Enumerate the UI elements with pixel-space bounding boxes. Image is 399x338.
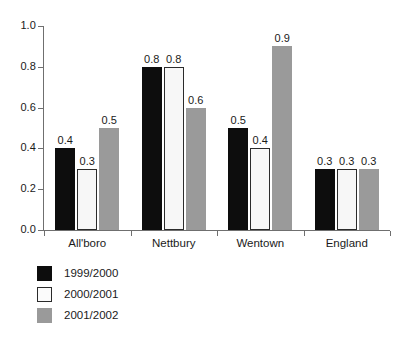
bar-value-label: 0.9: [275, 32, 290, 45]
x-axis-tick-mark: [131, 231, 132, 236]
y-axis-tick-label: 0.0: [20, 223, 36, 236]
bar[interactable]: 0.8: [142, 67, 162, 230]
y-axis-tick-mark: [38, 189, 44, 190]
bar-value-label: 0.8: [144, 53, 159, 66]
y-axis-tick-label: 0.2: [20, 182, 36, 195]
bar-value-label: 0.3: [317, 155, 332, 168]
x-axis-tick-mark: [304, 231, 305, 236]
white-swatch: [37, 287, 52, 302]
bar-value-label: 0.3: [80, 155, 95, 168]
bar-group: 0.50.40.9: [217, 26, 304, 230]
x-axis-tick-mark: [44, 231, 45, 236]
plot-area: 0.40.30.50.80.80.60.50.40.90.30.30.3: [44, 26, 390, 230]
bar-value-label: 0.3: [339, 155, 354, 168]
bar[interactable]: 0.4: [250, 148, 270, 230]
bar-group: 0.40.30.5: [44, 26, 131, 230]
y-axis-tick-label: 0.8: [20, 60, 36, 73]
bar-group: 0.80.80.6: [131, 26, 218, 230]
bar[interactable]: 0.5: [228, 128, 248, 230]
bar[interactable]: 0.3: [315, 169, 335, 230]
x-axis-category-label: All'boro: [68, 236, 106, 251]
bar-value-label: 0.6: [188, 94, 203, 107]
y-axis-tick-label: 0.6: [20, 101, 36, 114]
bar-value-label: 0.3: [361, 155, 376, 168]
legend-item-label: 1999/2000: [64, 266, 118, 281]
x-axis-category-label: Wentown: [236, 236, 284, 251]
bar[interactable]: 0.3: [359, 169, 379, 230]
y-axis-tick-mark: [38, 26, 44, 27]
bar-value-label: 0.4: [58, 134, 73, 147]
x-axis-category-label: England: [326, 236, 368, 251]
gray-swatch: [37, 308, 52, 323]
y-axis-tick-mark: [38, 67, 44, 68]
x-axis-category-label: Nettbury: [152, 236, 195, 251]
bar-value-label: 0.8: [166, 53, 181, 66]
bar[interactable]: 0.5: [99, 128, 119, 230]
bar[interactable]: 0.8: [164, 67, 184, 230]
y-axis-tick-label: 1.0: [20, 19, 36, 32]
legend-item-label: 2000/2001: [64, 287, 118, 302]
black-swatch: [37, 266, 52, 281]
bar[interactable]: 0.4: [55, 148, 75, 230]
y-axis-tick-label: 0.4: [20, 141, 36, 154]
bar-chart: 0.40.30.50.80.80.60.50.40.90.30.30.3 0.0…: [0, 0, 399, 338]
bar[interactable]: 0.9: [272, 46, 292, 230]
y-axis-tick-mark: [38, 148, 44, 149]
bar-group: 0.30.30.3: [304, 26, 391, 230]
x-axis-tick-mark: [217, 231, 218, 236]
y-axis-tick-mark: [38, 108, 44, 109]
bar-value-label: 0.5: [231, 114, 246, 127]
legend-item-label: 2001/2002: [64, 308, 118, 323]
bar-value-label: 0.4: [253, 134, 268, 147]
bar[interactable]: 0.6: [186, 108, 206, 230]
bar[interactable]: 0.3: [77, 169, 97, 230]
x-axis-tick-mark: [390, 231, 391, 236]
bar[interactable]: 0.3: [337, 169, 357, 230]
bar-value-label: 0.5: [102, 114, 117, 127]
